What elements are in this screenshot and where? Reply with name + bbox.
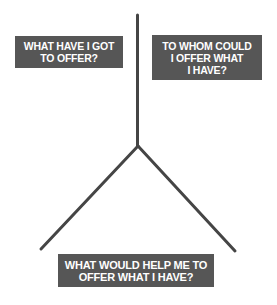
what-would-help-me-box: WHAT WOULD HELP ME TO OFFER WHAT I HAVE? bbox=[58, 254, 214, 287]
y-diagram: WHAT HAVE I GOT TO OFFER? TO WHOM COULD … bbox=[0, 0, 277, 305]
box-text-line: TO OFFER? bbox=[24, 52, 115, 64]
box-text-line: OFFER WHAT I HAVE? bbox=[65, 271, 207, 283]
box-text-line: I OFFER WHAT bbox=[162, 52, 251, 64]
what-have-i-got-box: WHAT HAVE I GOT TO OFFER? bbox=[15, 36, 123, 68]
box-text-line: I HAVE? bbox=[162, 64, 251, 76]
box-text-line: WHAT HAVE I GOT bbox=[24, 40, 115, 52]
right-leg-line bbox=[138, 146, 235, 251]
to-whom-could-i-offer-box: TO WHOM COULD I OFFER WHAT I HAVE? bbox=[152, 35, 262, 80]
box-text-line: WHAT WOULD HELP ME TO bbox=[65, 259, 207, 271]
box-text-line: TO WHOM COULD bbox=[162, 40, 251, 52]
left-leg-line bbox=[41, 146, 138, 249]
